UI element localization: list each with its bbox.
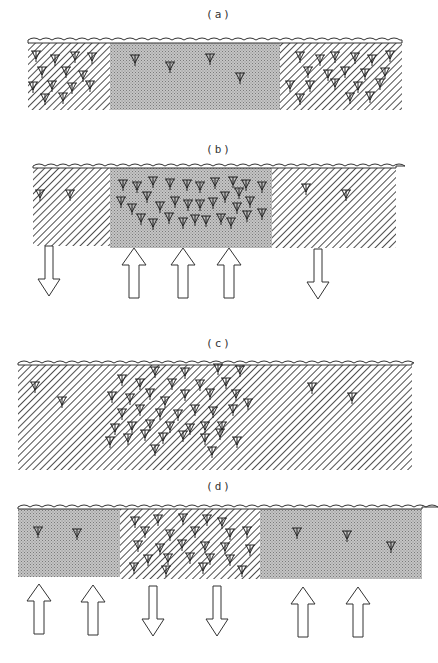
panel-b-water-surface [33,164,405,168]
panel-c [18,361,414,470]
panel-d-water-surface [18,505,438,509]
panel-a-zone-middle [110,43,280,110]
panel-b [33,164,405,299]
arrow-down-icon [206,586,228,636]
panel-b-zone-left [33,168,110,246]
arrow-up-icon [346,587,370,637]
panel-d-zone-left [18,508,120,577]
panel-d [18,505,438,637]
arrow-up-icon [291,587,315,637]
arrow-up-icon [217,248,241,298]
arrow-down-icon [38,246,60,296]
panel-b-zone-right [272,168,396,248]
panel-a-zone-right [280,43,402,110]
panel-a-water-surface [28,38,402,43]
arrow-up-icon [122,248,146,298]
arrow-up-icon [27,584,51,634]
arrow-up-icon [171,248,195,298]
arrow-up-icon [81,585,105,635]
panel-c-zone-whole [18,365,412,470]
arrow-down-icon [307,249,329,299]
panel-a-zone-left [28,43,110,110]
diagram-canvas [0,0,438,663]
arrow-down-icon [142,586,164,636]
panel-d-zone-right [260,508,422,579]
panel-a [28,38,402,110]
